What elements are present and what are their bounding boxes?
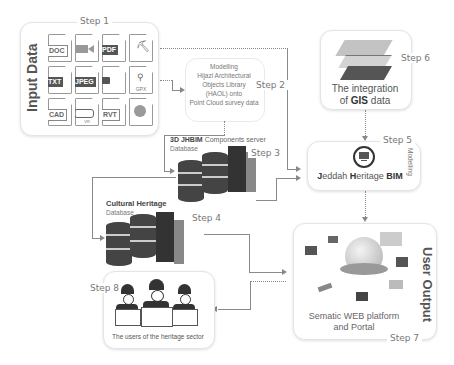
vr-file-icon: VR — [75, 98, 99, 126]
arrow-right-icon — [296, 166, 301, 172]
step-8-label: Step 8 — [87, 283, 122, 293]
cultural-db-subtitle: Database — [106, 209, 134, 216]
bim-eddah: eddah — [322, 171, 350, 181]
arrow-right-icon — [170, 168, 175, 174]
jhbim-title-bold: 3D JHBIM — [170, 136, 203, 143]
connector-step2-elbow — [172, 80, 173, 90]
modelling-line-5: Point Cloud survey data — [182, 98, 266, 107]
bim-bim: BIM — [386, 171, 403, 181]
connector-input-to-bim-v — [287, 48, 288, 170]
connector-gis-to-bim — [365, 110, 367, 136]
gis-line-1: The integration — [320, 83, 410, 95]
gis-line-2: of GIS data — [320, 95, 410, 107]
modelling-line-1: Modelling — [182, 62, 266, 71]
gis-bold: GIS — [351, 95, 368, 106]
pdf-file-icon: PDF — [102, 34, 126, 62]
step-2-label: Step 2 — [253, 80, 288, 90]
connector-bim-to-output — [365, 191, 367, 217]
rvt-file-icon: RVT — [102, 98, 126, 126]
users-caption: The users of the heritage sector — [103, 333, 213, 340]
input-data-title: Input Data — [24, 44, 40, 112]
surveyor-file-icon: ⛏ — [129, 34, 153, 62]
bim-title: Jeddah Heritage BIM — [307, 171, 413, 181]
jhbim-title-rest: Components server — [203, 136, 266, 143]
cad-file-icon: CAD — [48, 98, 72, 126]
connector-output-to-users-h — [250, 281, 286, 283]
output-line-2: and Portal — [296, 322, 412, 333]
step-3-label: Step 3 — [248, 148, 283, 158]
step-5-label: Step 5 — [380, 135, 415, 145]
arrow-right-icon — [100, 235, 105, 241]
connector-cultural-to-output-h2 — [249, 272, 282, 273]
step-6-label: Step 6 — [398, 53, 433, 63]
connector-output-to-users-h2 — [218, 309, 251, 310]
bim-monitor-icon — [353, 146, 375, 168]
output-text: Sematic WEB platform and Portal — [296, 311, 412, 333]
connector-output-to-users-v — [250, 281, 251, 309]
jhbim-db-title: 3D JHBIM Components server — [170, 136, 266, 143]
gis-pre: of — [340, 95, 351, 106]
arrow-right-icon — [296, 175, 301, 181]
connector-cultural-to-output-v — [249, 234, 250, 272]
connector-input-to-bim — [160, 48, 288, 50]
connector-jhbim-to-cultural-h — [92, 177, 176, 178]
camera-file-icon — [102, 66, 126, 94]
arrow-down-icon — [362, 217, 368, 222]
step-1-label: Step 1 — [77, 16, 112, 26]
connector-jhbim-to-cultural-v — [92, 177, 93, 238]
txt-file-icon: TXT — [48, 66, 72, 94]
user-output-title: User Output — [420, 247, 435, 322]
step-7-label: Step 7 — [387, 333, 422, 343]
connector-input-to-step2 — [160, 80, 172, 82]
doc-file-icon: DOC — [48, 34, 72, 62]
connector-db-to-bim-h1 — [256, 200, 276, 201]
scan-file-icon — [129, 98, 153, 126]
connector-jhbim-to-cultural-h2 — [92, 238, 100, 239]
connector-step2-elbow-h — [172, 90, 180, 91]
arrow-right-icon — [282, 269, 287, 275]
connector-input-to-bim-h — [287, 169, 296, 170]
step-4-label: Step 4 — [189, 213, 224, 223]
connector-step2-to-db-v — [164, 135, 165, 171]
gis-post: data — [368, 95, 390, 106]
connector-step2-down — [224, 121, 226, 135]
output-line-1: Sematic WEB platform — [296, 311, 412, 322]
connector-db-to-bim-v — [276, 178, 277, 201]
jpeg-file-icon: JPEG — [75, 66, 99, 94]
cultural-db-title: Cultural Heritage — [106, 199, 166, 208]
jhbim-db-subtitle: Database — [170, 145, 198, 152]
gis-text: The integration of GIS data — [320, 83, 410, 107]
bim-eritage: eritage — [356, 171, 386, 181]
modelling-line-4: (HAOL) onto — [182, 89, 266, 98]
gpx-file-icon: ⚲GPX — [129, 66, 153, 94]
connector-cultural-to-output-h — [204, 234, 250, 235]
video-file-icon — [75, 34, 99, 62]
connector-db-to-bim-h2 — [276, 178, 296, 179]
bim-side-label: Modelling — [407, 148, 414, 176]
modelling-line-2: Hijazi Architectural — [182, 71, 266, 80]
